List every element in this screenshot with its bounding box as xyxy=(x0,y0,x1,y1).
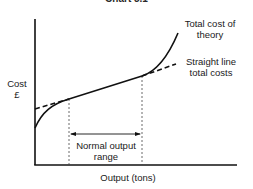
range-label-line1: Normal output xyxy=(70,140,142,151)
straight-line-label-line2: total costs xyxy=(181,67,241,78)
arrowhead-left-icon xyxy=(70,132,76,136)
total-cost-curve-label: Total cost of theory xyxy=(180,18,240,40)
y-axis-label-line1: Cost xyxy=(4,78,30,89)
cost-behaviour-chart: Chart 5.1 Cost £ Total cost of theory St… xyxy=(0,0,253,189)
straight-line-label-line1: Straight line xyxy=(181,56,241,67)
range-label-line2: range xyxy=(70,151,142,162)
straight-line-label: Straight line total costs xyxy=(181,56,241,78)
normal-output-range-label: Normal output range xyxy=(70,140,142,162)
curve-label-leader xyxy=(170,33,177,48)
y-axis-label-line2: £ xyxy=(4,89,30,100)
arrowhead-right-icon xyxy=(135,132,141,136)
curve-label-line1: Total cost of xyxy=(180,18,240,29)
total-cost-curve xyxy=(35,33,178,128)
curve-label-line2: theory xyxy=(180,29,240,40)
x-axis-label: Output (tons) xyxy=(88,172,168,183)
y-axis-label: Cost £ xyxy=(4,78,30,100)
